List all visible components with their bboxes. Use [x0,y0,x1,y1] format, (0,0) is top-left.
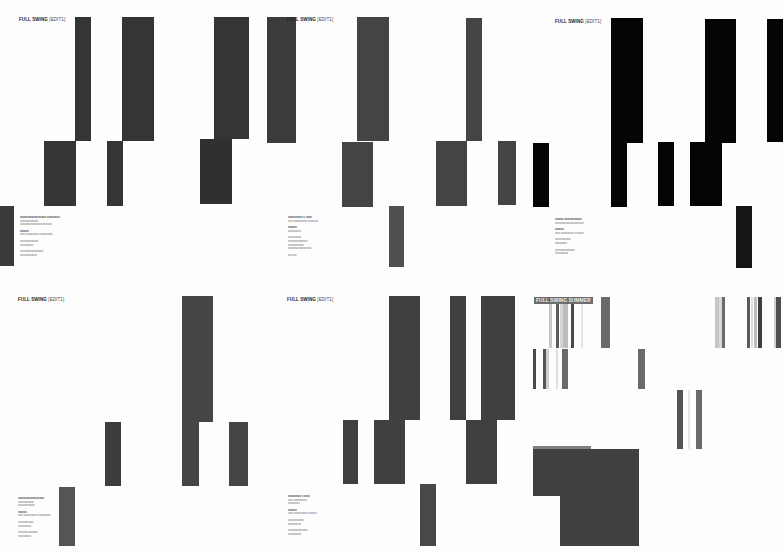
bar [690,142,722,206]
stripe [563,304,568,348]
poster-panel-5: FULL SWING [EDIT1] xxxxxxxxx x xxxx xxxx… [261,276,522,552]
bar [767,19,783,142]
bar [389,296,420,420]
poster-title: FULL SWING [EDIT1] [555,19,601,24]
poster-info: xxxxxxxxxxxxxxxxxx xxxxxxxxx xxxxxxxxxxx… [20,216,90,257]
stripe [571,304,574,348]
poster-panel-1: FULL SWING [EDIT1] xxxxxxxxxxxxxxxxxx xx… [0,0,261,276]
bar [182,422,199,486]
bar [466,18,482,141]
bar [214,17,249,139]
stripe [556,304,559,348]
info-line: xxxxxxxxxx [288,533,358,537]
bar [229,422,248,486]
bar [44,141,76,206]
poster-title: FULL SWING [EDIT1] [18,297,64,302]
poster-info: xxxxxxxxx x xxxx xxxx xxxxxxxxxx xxxxxxx… [288,495,358,536]
stripe [776,297,781,348]
bar [420,484,436,546]
poster-panel-3: FULL SWING [EDIT1] xxxxxx xxxxxxxxxxxx x… [522,0,783,276]
bar [182,296,213,422]
info-line: xxxxxxxxxxxxx [20,254,90,258]
bar [705,19,736,143]
stripe [751,297,753,348]
poster-panel-4: FULL SWING [EDIT1] xxxxxxxxxxxxxxxxxx xx… [0,276,261,552]
info-line: xxxxxxxxxx [18,535,88,539]
bar [267,17,296,143]
bar [342,142,373,207]
bar [436,141,467,206]
bar [611,18,643,143]
info-line: xxx xxx [288,254,358,258]
stripe [601,297,610,348]
stripe [581,304,583,348]
bar [736,206,752,268]
poster-panel-2: FULL SWING [EDIT1] xxxxxxxxxx x. xxxx xx… [261,0,522,276]
bar [343,420,358,484]
poster-title: FULL SWING [EDIT1] [19,17,65,22]
poster-title: FULL SWING SUMMER [534,297,593,304]
stripe [722,297,725,348]
stripe [758,297,762,348]
bar [122,17,154,141]
bar [75,17,91,141]
poster-panel-6: FULL SWING SUMMER [522,276,783,552]
stripe [754,297,757,348]
bar [481,296,515,420]
stripe [677,390,683,449]
bar [466,420,497,484]
bar [107,141,123,206]
bar [105,422,121,486]
stripe [696,390,702,449]
bar [0,206,14,266]
poster-info: xxxxxxxxxx x. xxxx xxxx xxxxxxxxxx xxxxx… [288,216,358,257]
bar [357,17,389,141]
stripe [638,349,645,389]
bar [533,143,549,207]
poster-info: xxxxxx xxxxxxxxxxxx xxxxxxxxxxxxxxxxxxxx… [555,218,625,256]
block [560,495,639,546]
block [533,449,639,496]
info-line: xxxxxxxxxx [555,252,625,256]
stripe [546,349,549,389]
poster-title: FULL SWING [EDIT1] [287,17,333,22]
stripe [747,297,750,348]
bar [498,141,516,205]
stripe [556,349,558,389]
bar [611,143,627,207]
poster-title: FULL SWING [EDIT1] [287,297,333,302]
bar [389,206,404,267]
stripe [562,349,568,389]
stripe [533,349,536,389]
bar [200,139,232,204]
stripe [549,304,552,348]
bar [658,142,674,206]
bar [374,420,405,484]
stripe [688,390,690,449]
bar [450,296,466,420]
poster-info: xxxxxxxxxxxxxxxxxx xxxxxxxxxxxx xxxxxxxx… [18,497,88,538]
